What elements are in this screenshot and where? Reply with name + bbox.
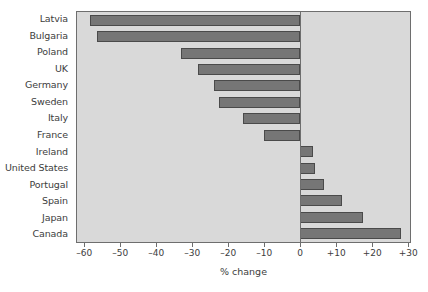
y-axis-tick-label: Portugal [29,177,68,194]
x-axis-tick-label: +30 [399,248,418,258]
y-axis-tick-label: Latvia [40,11,68,28]
x-axis-tick-label: –10 [256,248,272,258]
bar [300,146,313,157]
x-axis-tick-label: –20 [220,248,236,258]
x-axis-tick-mark [120,243,121,247]
bar-row [77,176,410,193]
x-axis: –60–50–40–30–20–100+10+20+30 [76,243,411,267]
bar-row [77,127,410,144]
bar [300,195,341,206]
y-axis-tick-label: Bulgaria [29,28,68,45]
x-axis-tick-mark [228,243,229,247]
bar [300,179,323,190]
bar [300,212,363,223]
y-axis-tick-label: France [37,127,68,144]
y-axis-tick-label: Spain [42,193,68,210]
bar [219,97,300,108]
y-axis-tick-label: Japan [42,210,68,227]
bar-row [77,193,410,210]
y-axis-tick-label: Poland [37,44,68,61]
x-axis-tick-mark [84,243,85,247]
x-axis-tick-mark [408,243,409,247]
bar-row [77,209,410,226]
y-axis-tick-label: Germany [25,77,68,94]
bar-row [77,226,410,243]
bar-row [77,94,410,111]
x-axis-tick-label: –30 [184,248,200,258]
y-axis-label-group: Latvia Bulgaria Poland UK Germany Sweden… [0,11,72,243]
y-axis-tick-label: Canada [32,226,68,243]
y-axis-tick-label: Sweden [31,94,68,111]
x-axis-tick-label: –40 [148,248,164,258]
bar [198,64,301,75]
x-axis-tick-mark [372,243,373,247]
bar [90,15,301,26]
x-axis-tick-mark [300,243,301,247]
x-axis-tick-label: +20 [363,248,382,258]
bar-row [77,160,410,177]
bar [300,163,314,174]
y-axis-tick-label: UK [55,61,68,78]
x-axis-tick-mark [264,243,265,247]
bar [243,113,301,124]
bar-row [77,28,410,45]
bar-chart: Latvia Bulgaria Poland UK Germany Sweden… [0,0,428,292]
y-axis-tick-label: Ireland [36,144,68,161]
bar-row [77,111,410,128]
y-axis-tick-label: Italy [48,110,68,127]
bar-row [77,45,410,62]
y-axis-tick-label: United States [5,160,68,177]
plot-area [76,11,411,243]
bar-row [77,61,410,78]
zero-reference-line [300,12,301,242]
bar-row [77,12,410,29]
x-axis-tick-mark [336,243,337,247]
x-axis-title: % change [76,266,411,277]
x-axis-tick-mark [192,243,193,247]
bar-row [77,78,410,95]
x-axis-tick-label: –60 [76,248,92,258]
x-axis-tick-mark [156,243,157,247]
bar [214,80,300,91]
x-axis-tick-label: –50 [112,248,128,258]
bar [264,130,300,141]
bar [300,228,401,239]
bar-row [77,143,410,160]
x-axis-tick-label: 0 [297,248,303,258]
x-axis-tick-label: +10 [327,248,346,258]
bar [97,31,300,42]
bar [181,48,300,59]
